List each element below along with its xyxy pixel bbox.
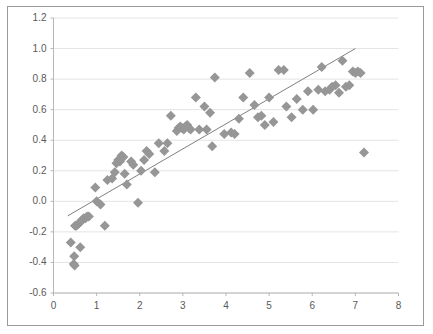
data-point bbox=[69, 251, 79, 261]
y-tick-label: 1.2 bbox=[0, 13, 47, 23]
data-point bbox=[100, 221, 110, 231]
y-tick-label: -0.6 bbox=[0, 288, 47, 298]
data-point bbox=[260, 120, 270, 130]
data-point bbox=[249, 100, 259, 110]
scatter-plot bbox=[0, 0, 433, 334]
chart-figure: -0.6-0.4-0.20.00.20.40.60.81.01.2 012345… bbox=[0, 0, 433, 334]
y-tick-label: 0.2 bbox=[0, 166, 47, 176]
data-point bbox=[359, 147, 369, 157]
y-tick-label: 0.8 bbox=[0, 74, 47, 84]
trendline bbox=[68, 49, 356, 216]
y-tick-label: 1.0 bbox=[0, 44, 47, 54]
data-point bbox=[234, 114, 244, 124]
data-point bbox=[308, 105, 318, 115]
x-tick-label: 3 bbox=[168, 301, 198, 311]
data-point bbox=[210, 73, 220, 83]
data-point bbox=[150, 167, 160, 177]
y-tick-label: 0.6 bbox=[0, 105, 47, 115]
data-point bbox=[166, 111, 176, 121]
data-point bbox=[207, 141, 217, 151]
data-point bbox=[122, 180, 132, 190]
x-tick-label: 0 bbox=[39, 301, 69, 311]
data-point bbox=[245, 68, 255, 78]
data-point bbox=[191, 92, 201, 102]
data-points bbox=[66, 56, 369, 271]
data-point bbox=[238, 92, 248, 102]
trendline-group bbox=[68, 49, 356, 216]
data-point bbox=[292, 94, 302, 104]
y-tick-label: -0.2 bbox=[0, 227, 47, 237]
data-point bbox=[268, 117, 278, 127]
data-point bbox=[337, 56, 347, 66]
y-tick-label: -0.4 bbox=[0, 257, 47, 267]
x-tick-label: 6 bbox=[297, 301, 327, 311]
x-tick-label: 1 bbox=[82, 301, 112, 311]
data-point bbox=[136, 166, 146, 176]
data-point bbox=[75, 242, 85, 252]
data-point bbox=[298, 105, 308, 115]
data-point bbox=[287, 112, 297, 122]
data-point bbox=[303, 86, 313, 96]
data-point bbox=[90, 183, 100, 193]
data-point bbox=[279, 65, 289, 75]
y-tick-label: 0.4 bbox=[0, 135, 47, 145]
data-point bbox=[66, 238, 76, 248]
x-tick-label: 7 bbox=[340, 301, 370, 311]
data-point bbox=[133, 198, 143, 208]
gridlines bbox=[54, 18, 399, 293]
x-tick-label: 4 bbox=[211, 301, 241, 311]
x-tick-label: 5 bbox=[254, 301, 284, 311]
x-tick-label: 2 bbox=[125, 301, 155, 311]
y-tick-label: 0.0 bbox=[0, 196, 47, 206]
x-tick-label: 8 bbox=[384, 301, 414, 311]
